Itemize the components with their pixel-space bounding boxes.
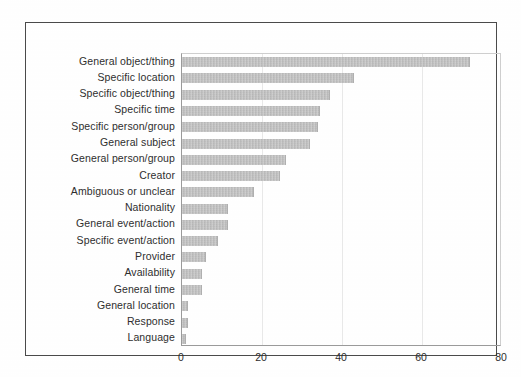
category-label: Nationality — [51, 201, 175, 213]
bar-row — [182, 168, 500, 184]
category-label: Specific location — [51, 71, 175, 83]
bar — [182, 90, 330, 100]
bar — [182, 73, 354, 83]
category-label: Provider — [51, 250, 175, 262]
bar-row — [182, 201, 500, 217]
bar-row — [182, 119, 500, 135]
bar — [182, 106, 320, 116]
bar — [182, 236, 218, 246]
category-label: Specific object/thing — [51, 87, 175, 99]
bar-row — [182, 87, 500, 103]
bar-row — [182, 184, 500, 200]
bar — [182, 187, 254, 197]
bar — [182, 204, 228, 214]
category-label: Specific event/action — [51, 234, 175, 246]
x-tick-label: 20 — [255, 351, 267, 363]
bar — [182, 57, 470, 67]
bar-row — [182, 298, 500, 314]
bar — [182, 122, 318, 132]
value-axis-tick-labels: 020406080 — [181, 351, 501, 371]
bar-row — [182, 70, 500, 86]
plot-area — [181, 53, 501, 346]
bar-row — [182, 217, 500, 233]
category-axis-labels: General object/thingSpecific locationSpe… — [51, 53, 178, 346]
bar-row — [182, 331, 500, 347]
category-label: Ambiguous or unclear — [51, 185, 175, 197]
bar — [182, 334, 186, 344]
bar-row — [182, 282, 500, 298]
bar-row — [182, 152, 500, 168]
bar — [182, 252, 206, 262]
bar-row — [182, 135, 500, 151]
bar — [182, 285, 202, 295]
x-tick-label: 60 — [415, 351, 427, 363]
category-label: General event/action — [51, 217, 175, 229]
category-label: General time — [51, 283, 175, 295]
bar-row — [182, 266, 500, 282]
bar — [182, 139, 310, 149]
bar-row — [182, 233, 500, 249]
bar-series — [182, 54, 500, 345]
category-label: Availability — [51, 266, 175, 278]
category-label: Response — [51, 315, 175, 327]
bar — [182, 220, 228, 230]
x-tick-label: 40 — [335, 351, 347, 363]
chart-figure: General object/thingSpecific locationSpe… — [0, 0, 521, 377]
bar — [182, 171, 280, 181]
category-label: Creator — [51, 169, 175, 181]
bar-row — [182, 249, 500, 265]
bar — [182, 269, 202, 279]
category-label: General subject — [51, 136, 175, 148]
bar-row — [182, 54, 500, 70]
bar — [182, 318, 188, 328]
bar-row — [182, 314, 500, 330]
chart-outer-frame: General object/thingSpecific locationSpe… — [25, 22, 497, 356]
category-label: Language — [51, 331, 175, 343]
category-label: Specific time — [51, 103, 175, 115]
bar — [182, 155, 286, 165]
bar — [182, 301, 188, 311]
x-tick-label: 80 — [495, 351, 507, 363]
category-label: General object/thing — [51, 55, 175, 67]
category-label: General location — [51, 299, 175, 311]
category-label: Specific person/group — [51, 120, 175, 132]
x-tick-label: 0 — [178, 351, 184, 363]
bar-row — [182, 103, 500, 119]
category-label: General person/group — [51, 152, 175, 164]
